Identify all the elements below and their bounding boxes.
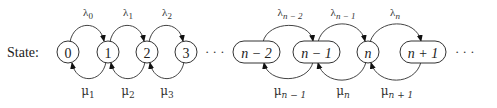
mu-label-n-plus-1: μn + 1 <box>381 84 414 100</box>
arc-forward-n2-n1 <box>263 25 313 42</box>
arc-forward-0-1 <box>70 25 104 42</box>
mu-label-2: μ2 <box>121 84 135 100</box>
arc-forward-n1-n <box>318 24 365 42</box>
svg-text:1: 1 <box>105 46 112 61</box>
state-node-n: n <box>357 41 379 63</box>
arc-backward-n1p-n <box>371 62 421 80</box>
state-node-2: 2 <box>136 41 158 63</box>
state-node-n-minus-1: n − 1 <box>293 41 340 63</box>
arc-backward-n-n1 <box>318 62 366 80</box>
lambda-label-n-minus-1: λn − 1 <box>331 6 356 21</box>
lambda-label-0: λ0 <box>83 6 93 21</box>
state-diagram: State: 0 1 2 3 · · · n − 2 n − 1 n <box>0 0 497 108</box>
mu-label-3: μ3 <box>160 84 174 100</box>
arc-backward-1-0 <box>72 62 106 79</box>
ellipsis-left: · · · <box>205 44 225 59</box>
arc-forward-2-3 <box>149 25 183 42</box>
svg-text:n − 2: n − 2 <box>241 46 271 61</box>
mu-label-1: μ1 <box>81 84 95 100</box>
state-node-3: 3 <box>175 41 197 63</box>
svg-text:n: n <box>365 46 372 61</box>
arc-backward-2-1 <box>111 62 145 79</box>
ellipsis-right: · · · <box>455 44 475 59</box>
svg-text:3: 3 <box>183 46 190 61</box>
lambda-label-n-minus-2: λn − 2 <box>278 6 303 21</box>
lambda-label-2: λ2 <box>162 6 172 21</box>
svg-text:2: 2 <box>144 46 151 61</box>
state-node-1: 1 <box>97 41 119 63</box>
arc-forward-1-2 <box>110 25 144 42</box>
state-node-0: 0 <box>57 41 79 63</box>
svg-text:n + 1: n + 1 <box>408 46 438 61</box>
lambda-label-n: λn <box>390 6 400 21</box>
state-node-n-minus-2: n − 2 <box>233 41 280 63</box>
mu-label-n: μn <box>336 84 350 100</box>
arc-forward-n-n1p <box>370 24 421 42</box>
state-row-label: State: <box>7 45 39 60</box>
arc-backward-n1-n2 <box>264 62 313 79</box>
lambda-label-1: λ1 <box>123 6 133 21</box>
arc-backward-3-2 <box>150 62 184 79</box>
state-node-n-plus-1: n + 1 <box>400 41 446 63</box>
svg-text:n − 1: n − 1 <box>301 46 331 61</box>
mu-label-n-minus-1: μn − 1 <box>274 84 307 100</box>
svg-text:0: 0 <box>65 46 72 61</box>
